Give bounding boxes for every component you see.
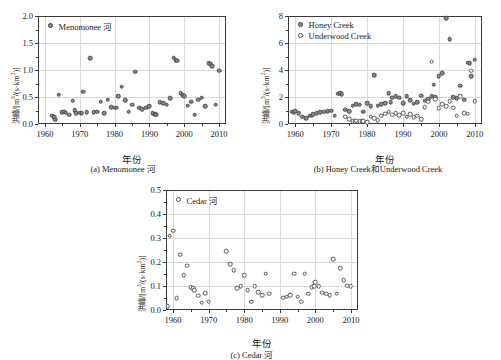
data-point — [174, 296, 179, 301]
data-point — [332, 113, 337, 118]
data-point — [331, 257, 336, 262]
legend-marker-icon — [298, 33, 303, 38]
legend-label: Cedar 河 — [187, 194, 218, 206]
data-point — [84, 110, 89, 115]
data-point — [238, 284, 243, 289]
data-point — [67, 113, 72, 118]
y-tick-label: 2.0 — [7, 11, 33, 21]
x-tick-label: 2010 — [342, 315, 359, 325]
x-tick — [45, 124, 46, 127]
y-tick-minor — [164, 226, 166, 227]
x-tick-minor — [421, 124, 422, 126]
data-point — [306, 291, 311, 296]
x-tick — [331, 124, 332, 127]
data-point — [469, 68, 474, 73]
y-tick — [163, 190, 166, 191]
caption-a: (a) Menomonee 河 — [90, 162, 155, 174]
data-point — [88, 56, 93, 61]
legend-a: Menomonee 河 — [48, 20, 112, 31]
data-point — [175, 59, 180, 64]
legend-item[interactable]: Underwood Creek — [298, 30, 371, 41]
x-tick-label: 1960 — [287, 129, 304, 139]
plot-area-b: 19601970198019902000201002468Honey Creek… — [288, 16, 482, 124]
data-point — [447, 99, 452, 104]
data-point — [126, 109, 131, 114]
gridline-horizontal — [167, 262, 357, 263]
x-tick-minor — [457, 124, 458, 126]
data-point — [181, 273, 186, 278]
data-point — [467, 61, 472, 66]
x-tick — [149, 124, 150, 127]
plot-area-a: 1960197019801990200020100.00.51.01.52.0M… — [38, 16, 226, 124]
legend-item[interactable]: Honey Creek — [298, 19, 371, 30]
data-point — [263, 271, 268, 276]
data-point — [245, 288, 250, 293]
y-axis-title-a: 洪峰/[m3/(s·km2)] — [10, 67, 21, 124]
y-tick — [35, 70, 38, 71]
legend-item[interactable]: Menomonee 河 — [48, 20, 112, 31]
data-point — [114, 106, 119, 111]
y-tick — [163, 214, 166, 215]
data-point — [249, 299, 254, 304]
x-tick — [115, 124, 116, 127]
data-point — [429, 60, 434, 65]
y-tick — [35, 43, 38, 44]
data-point — [267, 291, 272, 296]
x-tick — [244, 310, 245, 313]
panel-c-cedar: 1960197019801990200020100.00.10.20.30.40… — [126, 176, 376, 348]
y-tick-minor — [286, 57, 288, 58]
legend-marker-icon — [176, 197, 181, 202]
x-tick-label: 1960 — [165, 315, 182, 325]
data-point — [57, 93, 62, 98]
data-point — [469, 74, 474, 79]
data-point — [292, 271, 297, 276]
x-tick-minor — [62, 124, 63, 126]
data-point — [473, 58, 478, 63]
x-tick — [184, 124, 185, 127]
data-point — [372, 73, 377, 78]
x-tick-minor — [333, 310, 334, 312]
data-point — [361, 110, 366, 115]
y-tick — [285, 16, 288, 17]
y-tick — [285, 43, 288, 44]
data-point — [189, 100, 194, 105]
y-tick-minor — [36, 84, 38, 85]
y-tick-label: 0.4 — [135, 209, 161, 219]
data-point — [444, 104, 449, 109]
data-point — [53, 117, 58, 122]
y-tick-minor — [164, 250, 166, 251]
legend-item[interactable]: Cedar 河 — [176, 194, 218, 205]
gridline-vertical — [280, 191, 281, 309]
x-tick — [295, 124, 296, 127]
x-tick-label: 1970 — [323, 129, 340, 139]
caption-b: (b) Honey Creek和Underwood Creek — [314, 162, 443, 174]
data-point — [102, 111, 107, 116]
data-point — [473, 99, 478, 104]
x-tick-label: 2010 — [466, 129, 483, 139]
x-tick-label: 1990 — [141, 129, 158, 139]
data-point — [253, 284, 258, 289]
data-point — [440, 71, 445, 76]
data-point — [260, 293, 265, 298]
x-tick — [209, 310, 210, 313]
x-tick-minor — [313, 124, 314, 126]
data-point — [340, 92, 345, 97]
data-point — [376, 118, 381, 123]
data-point — [123, 98, 128, 103]
x-tick — [351, 310, 352, 313]
gridline-horizontal — [39, 43, 225, 44]
y-tick — [285, 70, 288, 71]
y-tick — [163, 286, 166, 287]
x-tick — [439, 124, 440, 127]
y-tick-label: 0.5 — [135, 185, 161, 195]
legend-c: Cedar 河 — [176, 194, 218, 205]
data-point — [165, 102, 170, 107]
y-axis-title-c: 洪峰/[m3/(s·km2)] — [136, 255, 147, 312]
data-point — [116, 94, 121, 99]
y-tick-minor — [36, 111, 38, 112]
data-point — [437, 106, 442, 111]
data-point — [192, 288, 197, 293]
data-point — [178, 253, 183, 258]
y-tick — [163, 238, 166, 239]
